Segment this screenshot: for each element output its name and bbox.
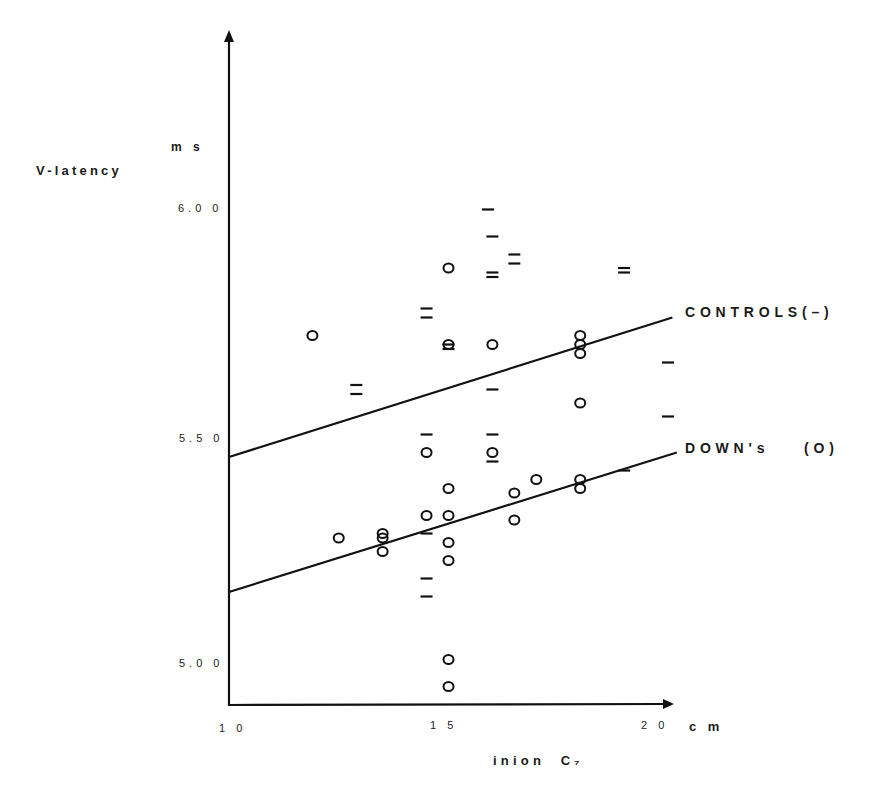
downs-point-circle-icon	[509, 515, 519, 524]
x-axis	[228, 699, 674, 709]
downs-point-circle-icon	[444, 682, 454, 691]
x-tick-20: 2 0	[641, 719, 668, 731]
downs-point-circle-icon	[575, 331, 585, 340]
y-axis-unit: m s	[171, 140, 204, 154]
downs-point-circle-icon	[334, 533, 344, 542]
x-tick-10: 1 0	[219, 722, 246, 734]
y-axis-arrow-icon	[224, 30, 234, 42]
downs-point-circle-icon	[509, 488, 519, 497]
downs-point-circle-icon	[575, 398, 585, 407]
x-axis-unit: c m	[689, 719, 723, 734]
downs-point-circle-icon	[487, 340, 497, 349]
data-points	[307, 210, 674, 692]
legend-controls: CONTROLS(–)	[685, 304, 833, 320]
regression-line-controls	[229, 318, 672, 458]
regression-lines	[229, 318, 677, 593]
x-axis-label: inion C₇	[493, 753, 584, 768]
x-axis-arrow-icon	[663, 699, 674, 709]
downs-point-circle-icon	[307, 331, 317, 340]
downs-point-circle-icon	[487, 448, 497, 457]
legend-downs: DOWN's (O)	[685, 440, 839, 456]
downs-point-circle-icon	[531, 475, 541, 484]
downs-point-circle-icon	[444, 263, 454, 272]
y-tick-6.00: 6.0 0	[178, 202, 222, 214]
regression-line-downs	[229, 453, 677, 593]
downs-point-circle-icon	[575, 484, 585, 493]
downs-point-circle-icon	[444, 655, 454, 664]
downs-point-circle-icon	[575, 349, 585, 358]
downs-point-circle-icon	[444, 511, 454, 520]
y-tick-5.00: 5.0 0	[179, 657, 223, 669]
downs-point-circle-icon	[444, 484, 454, 493]
downs-point-circle-icon	[444, 538, 454, 547]
downs-point-circle-icon	[422, 511, 432, 520]
scatter-plot	[0, 0, 884, 794]
downs-point-circle-icon	[378, 547, 388, 556]
y-axis	[224, 30, 234, 706]
y-axis-label: V-latency	[36, 163, 122, 178]
x-tick-15: 1 5	[430, 719, 457, 731]
y-tick-5.50: 5.5 0	[179, 432, 223, 444]
downs-point-circle-icon	[444, 556, 454, 565]
downs-point-circle-icon	[422, 448, 432, 457]
